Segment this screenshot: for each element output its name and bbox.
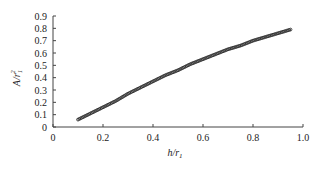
y-tick-label: 0.3 — [35, 85, 48, 96]
series-markers — [77, 28, 292, 121]
x-axis: 00.20.40.60.81.0 — [51, 124, 310, 143]
y-tick-label: 0.9 — [35, 11, 48, 22]
x-title-main: h/r — [167, 147, 179, 158]
x-tick-label: 1.0 — [297, 132, 310, 143]
y-tick-label: 0 — [42, 122, 47, 133]
data-series — [77, 28, 292, 121]
x-tick-label: 0.2 — [97, 132, 110, 143]
x-tick-label: 0 — [51, 132, 56, 143]
y-title-sub: 1 — [16, 70, 24, 74]
svg-text:A/r12: A/r12 — [9, 70, 24, 87]
y-title-sup: 2 — [9, 70, 17, 74]
x-tick-label: 0.8 — [247, 132, 260, 143]
y-tick-label: 0.4 — [35, 72, 48, 83]
x-tick-label: 0.6 — [197, 132, 210, 143]
y-title-main: A/r — [11, 73, 22, 87]
y-tick-label: 0.7 — [35, 35, 48, 46]
y-tick-label: 0.8 — [35, 23, 48, 34]
y-axis: 00.10.20.30.40.50.60.70.80.9 — [35, 11, 57, 133]
y-tick-label: 0.6 — [35, 48, 48, 59]
y-axis-title: A/r12 — [9, 70, 24, 87]
x-title-sub: 1 — [179, 152, 183, 160]
y-tick-label: 0.5 — [35, 60, 48, 71]
y-tick-label: 0.2 — [35, 97, 48, 108]
x-tick-label: 0.4 — [147, 132, 160, 143]
chart: 00.10.20.30.40.50.60.70.80.9 00.20.40.60… — [0, 0, 320, 169]
svg-text:h/r1: h/r1 — [167, 147, 182, 160]
x-axis-title: h/r1 — [167, 147, 182, 160]
y-tick-label: 0.1 — [35, 109, 48, 120]
